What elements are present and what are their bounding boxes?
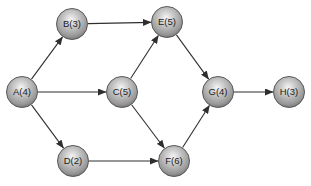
edge-B-E [88,22,151,23]
node-C: C(5) [107,77,138,108]
node-H: H(3) [274,77,305,108]
edges-layer [31,22,273,161]
node-G: G(4) [203,77,234,108]
node-D: D(2) [58,146,89,177]
edge-A-D [32,105,64,148]
node-circle-H [274,77,305,108]
node-circle-G [203,77,234,108]
graph-canvas: A(4)B(3)C(5)D(2)E(5)F(6)G(4)H(3) [0,0,311,186]
node-circle-F [159,146,190,177]
node-circle-C [107,77,138,108]
edge-E-G [176,35,208,79]
node-circle-E [152,7,183,38]
edge-C-F [132,105,165,148]
node-circle-B [57,9,88,40]
node-B: B(3) [57,9,88,40]
node-A: A(4) [7,77,38,108]
node-F: F(6) [159,146,190,177]
dependency-graph-diagram: A(4)B(3)C(5)D(2)E(5)F(6)G(4)H(3) [0,0,311,186]
edge-A-B [31,37,62,79]
node-circle-D [58,146,89,177]
node-circle-A [7,77,38,108]
node-E: E(5) [152,7,183,38]
edge-C-E [131,35,159,78]
edge-F-G [183,105,210,147]
